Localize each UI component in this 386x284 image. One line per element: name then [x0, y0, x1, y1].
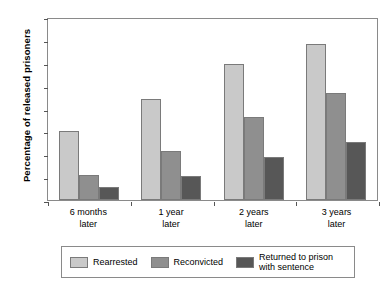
x-axis-labels: 6 monthslater1 yearlater2 yearslater3 ye… [47, 207, 378, 230]
x-axis-label-line: later [47, 219, 130, 231]
bar-returned-0 [99, 187, 119, 200]
x-tick-mark [379, 202, 380, 206]
legend-item: Returned to prison with sentence [236, 252, 346, 273]
x-tick-mark [48, 202, 49, 206]
legend-swatch-icon [151, 257, 169, 268]
bar-rearrested-3 [306, 44, 326, 200]
legend-swatch-icon [236, 257, 254, 268]
bar-rearrested-1 [141, 99, 161, 200]
x-axis-label-line: later [213, 219, 296, 231]
plot-area: 01020304050607080 [47, 18, 378, 201]
x-tick-mark [214, 202, 215, 206]
legend-label: Returned to prison with sentence [259, 252, 346, 273]
x-axis-label: 3 yearslater [295, 207, 378, 230]
x-tick-mark [131, 202, 132, 206]
bar-rearrested-0 [59, 131, 79, 200]
legend-item: Rearrested [70, 257, 138, 268]
bar-rearrested-2 [224, 64, 244, 200]
x-axis-label: 6 monthslater [47, 207, 130, 230]
x-axis-label-line: 2 years [213, 207, 296, 219]
x-axis-label-line: 6 months [47, 207, 130, 219]
bar-group [213, 19, 295, 200]
bar-returned-3 [346, 142, 366, 200]
x-axis-label: 1 yearlater [130, 207, 213, 230]
bar-reconvicted-0 [79, 175, 99, 200]
x-axis-label-line: later [130, 219, 213, 231]
bar-group [295, 19, 377, 200]
bar-returned-1 [181, 176, 201, 200]
bar-chart: Percentage of released prisoners 0102030… [0, 0, 386, 284]
x-axis-label-line: 3 years [295, 207, 378, 219]
legend-label: Rearrested [93, 257, 138, 268]
legend-item: Reconvicted [151, 257, 224, 268]
x-axis-label-line: later [295, 219, 378, 231]
chart-legend: RearrestedReconvictedReturned to prison … [61, 246, 355, 278]
bar-returned-2 [264, 157, 284, 200]
bar-reconvicted-3 [326, 93, 346, 201]
bar-group [130, 19, 212, 200]
legend-label: Reconvicted [174, 257, 224, 268]
bar-group [48, 19, 130, 200]
bar-reconvicted-2 [244, 117, 264, 200]
x-tick-mark [296, 202, 297, 206]
y-axis-title: Percentage of released prisoners [21, 16, 32, 196]
legend-swatch-icon [70, 257, 88, 268]
bars-layer [48, 19, 377, 200]
x-axis-label-line: 1 year [130, 207, 213, 219]
x-axis-label: 2 yearslater [213, 207, 296, 230]
bar-reconvicted-1 [161, 151, 181, 200]
